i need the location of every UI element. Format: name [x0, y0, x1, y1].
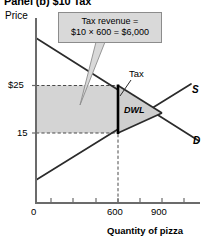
tax-annotation-label: Tax	[129, 68, 144, 79]
tax-incidence-figure: Panel (b) $10 Tax	[0, 0, 207, 239]
callout-line-1: Tax revenue =	[61, 16, 159, 27]
deadweight-loss-label: DWL	[124, 105, 145, 115]
x-tick-label-900: 900	[151, 206, 167, 217]
tax-revenue-shaded-region	[36, 86, 118, 134]
x-tick-label-600: 600	[107, 206, 123, 217]
y-tick-label-25: $25	[8, 79, 24, 90]
tax-revenue-callout: Tax revenue = $10 × 600 = $6,000	[58, 12, 162, 43]
supply-curve-label: S	[192, 84, 199, 95]
y-axis-title: Price	[5, 10, 28, 21]
demand-curve-label: D	[193, 135, 200, 146]
callout-line-2: $10 × 600 = $6,000	[61, 27, 159, 38]
y-tick-label-15: 15	[17, 127, 28, 138]
x-tick-label-0: 0	[31, 206, 36, 217]
x-axis-title: Quantity of pizza	[107, 225, 183, 236]
